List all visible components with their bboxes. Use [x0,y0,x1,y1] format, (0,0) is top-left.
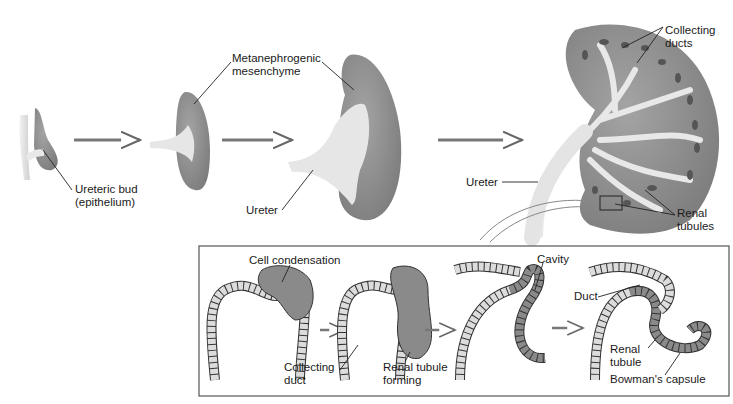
label-renal: Renal [677,207,707,219]
label-ureter-right: Ureter [466,176,498,188]
ureteric-bud-branch [150,125,194,162]
label-collecting: Collecting [665,24,716,36]
label-forming: forming [383,374,421,386]
label-collecting-duct-2: duct [284,374,307,386]
label-tubules: tubules [677,220,714,232]
label-mesenchyme: mesenchyme [232,65,300,77]
kidney-development-diagram: Ureteric bud (epithelium) Metanephrogeni… [0,0,733,404]
label-cell-condensation: Cell condensation [249,254,340,266]
label-renal-tubule: Renal [610,343,640,355]
ureter [532,132,585,238]
stage-2 [150,92,210,190]
ureteric-duct [19,115,30,180]
label-ducts: ducts [665,37,693,49]
leader-metanephrogenic-1 [194,62,231,104]
label-duct: Duct [574,290,598,302]
label-collecting-duct: Collecting [284,361,335,373]
label-renal-tubule-forming: Renal tubule [383,361,448,373]
stage-1-ureteric-bud [19,108,57,180]
label-tubule: tubule [610,356,641,368]
label-cavity: Cavity [537,253,569,265]
leader-ureter-mid [282,170,313,210]
label-ureteric-bud-2: (epithelium) [75,196,135,208]
stage-3 [288,55,401,221]
label-bowmans-capsule: Bowman's capsule [610,373,706,385]
label-ureter-mid: Ureter [246,204,278,216]
label-ureteric-bud: Ureteric bud [75,183,138,195]
mesenchyme-cap [34,108,58,170]
label-metanephrogenic: Metanephrogenic [232,52,321,64]
